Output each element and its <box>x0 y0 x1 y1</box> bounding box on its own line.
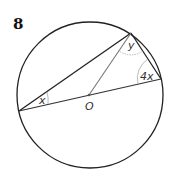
center-point <box>88 94 91 97</box>
chord-left-to-top <box>19 33 131 111</box>
radius-o-to-top <box>89 33 131 95</box>
angle-label-4x: 4x <box>140 70 154 83</box>
question-number: 8 <box>13 15 23 33</box>
center-label: O <box>85 100 94 113</box>
angle-label-y: y <box>127 39 135 52</box>
circle-theorem-diagram: 8 x y 4x O <box>0 0 175 185</box>
angle-arc-x <box>47 92 48 104</box>
angle-label-x: x <box>38 94 46 107</box>
